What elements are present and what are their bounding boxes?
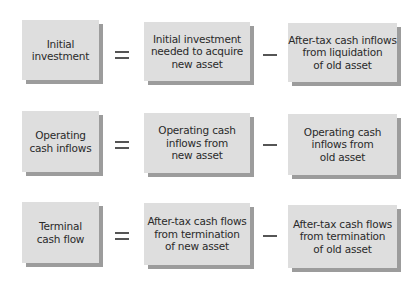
old-asset-termination-box: After-tax cash flows from termination of… bbox=[288, 205, 397, 268]
terminal-cash-flow-box: Terminal cash flow bbox=[22, 202, 99, 263]
minus-sign bbox=[263, 235, 277, 237]
operating-cash-inflows-label: Operating cash inflows bbox=[30, 129, 92, 154]
initial-investment-label: Initial investment bbox=[32, 38, 89, 63]
old-asset-liquidation-box: After-tax cash inflows from liquidation … bbox=[288, 23, 397, 82]
new-asset-investment-label: Initial investment needed to acquire new… bbox=[151, 33, 243, 71]
new-asset-termination-label: After-tax cash flows from termination of… bbox=[147, 215, 246, 253]
terminal-cash-flow-label: Terminal cash flow bbox=[37, 220, 85, 245]
operating-cash-inflows-box: Operating cash inflows bbox=[22, 111, 99, 172]
old-asset-operating-label: Operating cash inflows from old asset bbox=[304, 126, 381, 164]
new-asset-investment-box: Initial investment needed to acquire new… bbox=[144, 22, 250, 81]
minus-sign bbox=[263, 54, 277, 56]
minus-sign bbox=[263, 144, 277, 146]
new-asset-termination-box: After-tax cash flows from termination of… bbox=[144, 203, 250, 265]
new-asset-operating-box: Operating cash inflows from new asset bbox=[144, 113, 250, 173]
old-asset-liquidation-label: After-tax cash inflows from liquidation … bbox=[288, 34, 396, 72]
old-asset-operating-box: Operating cash inflows from old asset bbox=[288, 114, 397, 175]
new-asset-operating-label: Operating cash inflows from new asset bbox=[158, 124, 235, 162]
old-asset-termination-label: After-tax cash flows from termination of… bbox=[293, 218, 392, 256]
initial-investment-box: Initial investment bbox=[22, 20, 99, 80]
